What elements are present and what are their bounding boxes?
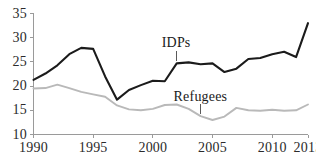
x-tick-label: 2000 xyxy=(131,141,175,155)
x-tick-label: 1990 xyxy=(12,141,56,155)
x-tick-label: 2005 xyxy=(191,141,235,155)
x-tick-label: 1995 xyxy=(71,141,115,155)
x-tick-label: 2013 xyxy=(286,141,316,155)
y-tick-label: 35 xyxy=(3,7,27,21)
y-tick-label: 25 xyxy=(3,55,27,69)
series-line-refugees xyxy=(34,85,309,120)
y-tick-label: 30 xyxy=(3,31,27,45)
y-tick-label: 20 xyxy=(3,79,27,93)
series-label-refugees: Refugees xyxy=(174,89,228,105)
series-label-idps: IDPs xyxy=(162,35,191,51)
y-tick-label: 15 xyxy=(3,103,27,117)
chart-container: 101520253035 199019952000200520102013 ID… xyxy=(0,0,316,164)
